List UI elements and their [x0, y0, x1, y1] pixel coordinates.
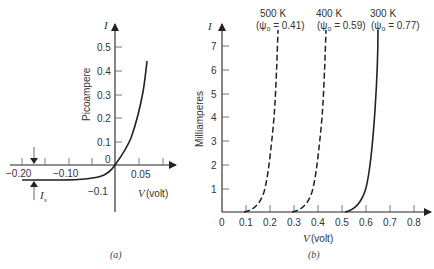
panel-a-caption: (a) — [110, 249, 122, 261]
panel-b-xtick-label: 0.1 — [239, 217, 253, 228]
panel-b-ytick-label: 6 — [211, 65, 217, 76]
is-arrow-down-icon — [30, 158, 38, 164]
panel-b-xtick-label: 0.8 — [407, 217, 421, 228]
figure: −0.20 −0.10 0.05 0.5 0.4 0.3 0.2 0.1 0 −… — [0, 0, 434, 269]
is-arrow-up-icon — [30, 181, 38, 187]
legend-400k: 400 K (ψo = 0.59) — [316, 8, 366, 32]
panel-a-x-ticks — [22, 158, 163, 165]
panel-b-xtick-label: 0 — [219, 217, 225, 228]
panel-b-x-axis-title: V (volt) — [303, 232, 333, 244]
panel-b-xtick-label: 0.2 — [263, 217, 277, 228]
panel-a-y-symbol: I — [103, 19, 109, 31]
panel-a-ytick-label: 0.1 — [97, 137, 111, 148]
panel-b-y-ticks — [222, 46, 229, 189]
svg-text:400 K: 400 K — [316, 8, 342, 19]
svg-text:(volt): (volt) — [146, 188, 168, 199]
panel-a-x-axis-title: V V (volt) (volt) — [138, 187, 168, 199]
panel-a-xtick-label: 0.05 — [131, 169, 151, 180]
panel-a-ytick-label: 0 — [105, 154, 111, 165]
svg-text:(volt): (volt) — [311, 233, 333, 244]
panel-b-xtick-label: 0.7 — [383, 217, 397, 228]
svg-text:300 K: 300 K — [370, 8, 396, 19]
panel-a: −0.20 −0.10 0.05 0.5 0.4 0.3 0.2 0.1 0 −… — [6, 19, 176, 261]
panel-b-ytick-label: 3 — [211, 136, 217, 147]
panel-b-xtick-label: 0.4 — [311, 217, 325, 228]
panel-a-xtick-label: −0.20 — [6, 168, 32, 179]
panel-b-ytick-label: 7 — [211, 41, 217, 52]
legend-500k: 500 K (ψo = 0.41) — [256, 8, 305, 32]
panel-b-ytick-label: 2 — [211, 160, 217, 171]
panel-a-ytick-label: 0.3 — [97, 90, 111, 101]
svg-text:V: V — [303, 232, 311, 244]
panel-a-ytick-label: −0.1 — [88, 186, 108, 197]
panel-b-y-axis-title: Milliamperes — [194, 91, 205, 147]
panel-b-xtick-label: 0.5 — [335, 217, 349, 228]
panel-a-ytick-label: 0.2 — [97, 113, 111, 124]
svg-text:V: V — [138, 187, 146, 199]
svg-text:(ψo = 0.59): (ψo = 0.59) — [317, 20, 366, 32]
legend-300k: 300 K (ψo = 0.77) — [370, 8, 420, 32]
panel-a-y-axis-title: Picoampere — [81, 67, 92, 121]
panel-b-caption: (b) — [308, 249, 320, 261]
panel-a-ytick-label: 0.5 — [97, 42, 111, 53]
panel-b-x-ticks — [246, 205, 414, 212]
panel-a-ytick-label: 0.4 — [97, 66, 111, 77]
is-label: I s — [39, 189, 47, 204]
panel-b: 7 6 5 4 3 2 1 0 0.1 0.2 0.3 0.4 0.5 0.6 … — [194, 8, 431, 261]
panel-a-y-ticks — [115, 47, 122, 142]
panel-b-ytick-label: 5 — [211, 89, 217, 100]
panel-b-y-symbol: I — [207, 20, 213, 32]
curve-400k — [292, 30, 326, 212]
panel-b-xtick-label: 0.3 — [287, 217, 301, 228]
panel-b-ytick-label: 1 — [211, 184, 217, 195]
curve-500k — [244, 30, 278, 212]
panel-b-xtick-label: 0.6 — [359, 217, 373, 228]
svg-text:500 K: 500 K — [260, 8, 286, 19]
curve-300k — [345, 30, 378, 212]
svg-text:s: s — [44, 196, 47, 204]
svg-text:(ψo = 0.41): (ψo = 0.41) — [256, 20, 305, 32]
panel-a-xtick-label: −0.10 — [53, 168, 79, 179]
panel-b-ytick-label: 4 — [211, 112, 217, 123]
